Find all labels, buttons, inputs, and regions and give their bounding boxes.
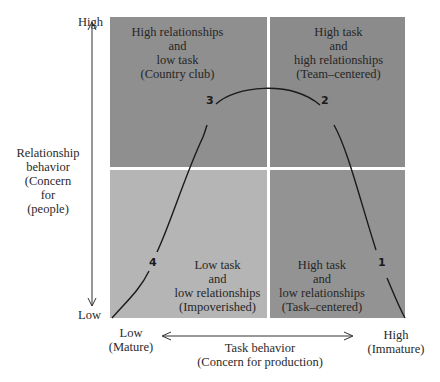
x-axis-arrow — [162, 332, 353, 340]
curve-point-1: 1 — [378, 256, 386, 269]
x-axis-title: Task behavior (Concern for production) — [180, 341, 340, 369]
curve-point-3: 3 — [206, 94, 214, 107]
x-axis-high-line: (Immature) — [360, 342, 432, 356]
x-axis-low-line: (Mature) — [100, 340, 162, 354]
x-axis-high-label: High (Immature) — [360, 328, 432, 356]
y-axis-title-line: Relationship — [8, 146, 88, 160]
y-axis-high-label: High — [78, 15, 103, 29]
y-axis-title-line: behavior — [8, 160, 88, 174]
y-axis-arrow — [88, 22, 96, 306]
x-axis-title-line: Task behavior — [180, 341, 340, 355]
x-axis-low-line: Low — [100, 326, 162, 340]
leadership-curve — [112, 88, 405, 318]
curve-point-4: 4 — [149, 256, 157, 269]
y-axis-title-line: (people) — [8, 202, 88, 216]
y-axis-title-line: (Concern — [8, 174, 88, 188]
y-axis-title: Relationship behavior (Concern for (peop… — [8, 146, 88, 216]
x-axis-high-line: High — [360, 328, 432, 342]
curve-point-2: 2 — [321, 94, 329, 107]
x-axis-low-label: Low (Mature) — [100, 326, 162, 354]
y-axis-title-line: for — [8, 188, 88, 202]
y-axis-low-label: Low — [78, 308, 101, 322]
x-axis-title-line: (Concern for production) — [180, 355, 340, 369]
